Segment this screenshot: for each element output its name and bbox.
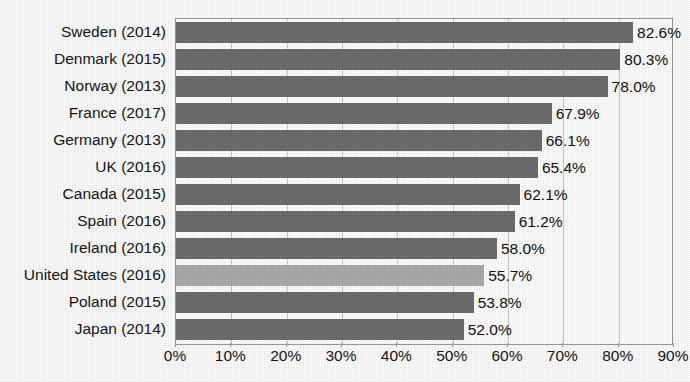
category-label: France (2017)	[69, 99, 166, 126]
bar-value-label: 61.2%	[515, 211, 563, 232]
tick-label: 90%	[657, 347, 688, 365]
bar[interactable]	[176, 265, 484, 286]
chart-title	[0, 0, 690, 5]
bar-value-label: 62.1%	[520, 184, 568, 205]
value-axis: 0%10%20%30%40%50%60%70%80%90%	[175, 347, 673, 377]
bar-row[interactable]: 52.0%	[176, 316, 674, 343]
bar-value-label: 67.9%	[552, 103, 600, 124]
bar[interactable]	[176, 319, 464, 340]
bar[interactable]	[176, 130, 542, 151]
bar-row[interactable]: 78.0%	[176, 73, 674, 100]
category-label: Spain (2016)	[77, 207, 166, 234]
tick-label: 80%	[602, 347, 633, 365]
bar-value-label: 66.1%	[542, 130, 590, 151]
tick-label: 40%	[381, 347, 412, 365]
category-label: Denmark (2015)	[54, 45, 166, 72]
bar-value-label: 55.7%	[484, 265, 532, 286]
bar[interactable]	[176, 211, 515, 232]
bar[interactable]	[176, 184, 520, 205]
bar-row[interactable]: 53.8%	[176, 289, 674, 316]
tick-label: 60%	[491, 347, 522, 365]
bar-row[interactable]: 55.7%	[176, 262, 674, 289]
bar[interactable]	[176, 157, 538, 178]
bar[interactable]	[176, 103, 552, 124]
tick-label: 70%	[547, 347, 578, 365]
bar-row[interactable]: 61.2%	[176, 208, 674, 235]
bar[interactable]	[176, 238, 497, 259]
bar-value-label: 78.0%	[608, 76, 656, 97]
bar-row[interactable]: 80.3%	[176, 46, 674, 73]
tick-label: 30%	[325, 347, 356, 365]
category-label: Sweden (2014)	[61, 18, 166, 45]
tick-label: 50%	[436, 347, 467, 365]
bar-row[interactable]: 65.4%	[176, 154, 674, 181]
tick-label: 0%	[164, 347, 186, 365]
bar-value-label: 58.0%	[497, 238, 545, 259]
bar-value-label: 82.6%	[633, 22, 681, 43]
bar-value-label: 52.0%	[464, 319, 512, 340]
bar[interactable]	[176, 292, 474, 313]
category-label: Japan (2014)	[75, 315, 166, 342]
bar-row[interactable]: 58.0%	[176, 235, 674, 262]
bar-value-label: 65.4%	[538, 157, 586, 178]
bar-row[interactable]: 62.1%	[176, 181, 674, 208]
category-axis: Sweden (2014)Denmark (2015)Norway (2013)…	[0, 18, 172, 345]
bar-row[interactable]: 82.6%	[176, 19, 674, 46]
tick-label: 20%	[270, 347, 301, 365]
plot-area: 82.6%80.3%78.0%67.9%66.1%65.4%62.1%61.2%…	[175, 18, 673, 345]
tick-label: 10%	[215, 347, 246, 365]
category-label: United States (2016)	[24, 261, 166, 288]
bar-row[interactable]: 66.1%	[176, 127, 674, 154]
category-label: Germany (2013)	[53, 126, 166, 153]
bar[interactable]	[176, 76, 608, 97]
category-label: Ireland (2016)	[69, 234, 166, 261]
category-label: Poland (2015)	[69, 288, 166, 315]
bar[interactable]	[176, 49, 620, 70]
bar-value-label: 80.3%	[620, 49, 668, 70]
bar-value-label: 53.8%	[474, 292, 522, 313]
bar-row[interactable]: 67.9%	[176, 100, 674, 127]
category-label: Canada (2015)	[63, 180, 166, 207]
bar[interactable]	[176, 22, 633, 43]
category-label: Norway (2013)	[64, 72, 166, 99]
category-label: UK (2016)	[95, 153, 166, 180]
